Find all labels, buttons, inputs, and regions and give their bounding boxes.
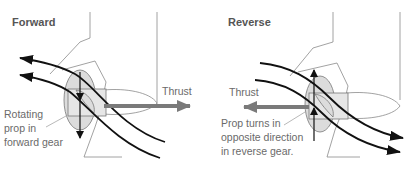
reverse-caption-leader — [284, 112, 305, 125]
reverse-caption-line-3: in reverse gear. — [221, 145, 293, 157]
forward-caption-leader — [46, 116, 66, 127]
propeller-thrust-diagram: Forward Thrust Rotating prop in forward … — [0, 0, 417, 178]
forward-caption-line-3: forward gear — [4, 136, 63, 148]
forward-caption-line-1: Rotating — [4, 108, 43, 120]
reverse-panel: Reverse Thrust Prop turns in opposite di… — [221, 12, 403, 157]
reverse-caption-line-2: opposite direction — [221, 131, 303, 143]
reverse-thrust-label: Thrust — [229, 86, 259, 98]
forward-thrust-label: Thrust — [162, 85, 192, 97]
reverse-caption-line-1: Prop turns in — [221, 117, 281, 129]
forward-caption-line-2: prop in — [4, 122, 36, 134]
forward-title: Forward — [12, 16, 55, 28]
forward-panel: Forward Thrust Rotating prop in forward … — [4, 12, 192, 158]
reverse-lower-unit-outline — [290, 12, 400, 157]
reverse-title: Reverse — [228, 16, 271, 28]
